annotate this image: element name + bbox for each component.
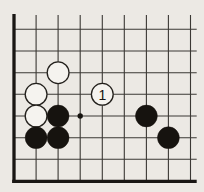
white-stone [47,62,69,84]
scanned-book-page: 1 [0,0,204,192]
move-number-label: 1 [98,87,106,103]
marked-point-dot [78,113,83,118]
go-board-diagram: 1 [0,0,204,192]
black-stone [47,127,69,149]
white-stone [25,83,47,105]
black-stone [47,105,69,127]
black-stone [136,105,158,127]
black-stone [25,127,47,149]
white-stone [25,105,47,127]
black-stone [158,127,180,149]
